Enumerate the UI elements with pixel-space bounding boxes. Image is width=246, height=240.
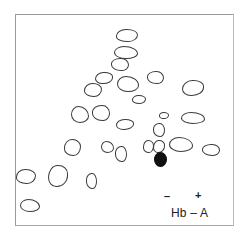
peptide-spot	[143, 140, 154, 153]
peptide-spot	[86, 173, 97, 189]
peptide-spot	[132, 95, 146, 104]
peptide-spot	[101, 141, 114, 153]
peptide-spot	[116, 29, 138, 42]
positive-pole-label: +	[195, 190, 201, 201]
peptide-spot	[202, 144, 220, 156]
peptide-spot	[111, 58, 129, 71]
peptide-spot	[117, 76, 139, 92]
peptide-spot	[16, 169, 36, 184]
peptide-spot	[115, 146, 127, 162]
highlighted-spot	[154, 152, 167, 167]
figure-label: Hb – A	[171, 207, 208, 219]
peptide-spot	[153, 140, 165, 153]
peptide-spot	[116, 119, 134, 130]
peptide-spot	[181, 112, 205, 124]
peptide-spot	[64, 139, 81, 156]
peptide-spot	[84, 83, 102, 97]
negative-pole-label: –	[164, 191, 170, 202]
peptide-spot	[159, 112, 169, 119]
peptide-spot	[153, 123, 165, 137]
peptide-spot	[147, 71, 164, 84]
peptide-spot	[92, 105, 110, 121]
